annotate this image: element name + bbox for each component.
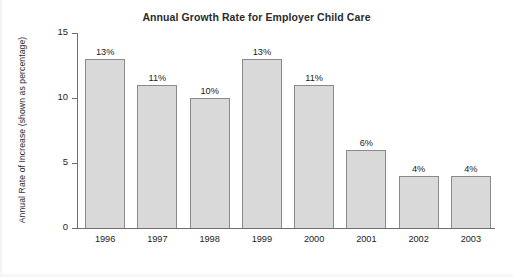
scan-edge-bottom (0, 272, 513, 277)
bar-1999: 13%1999 (242, 59, 282, 228)
bar-value-label: 6% (360, 138, 373, 148)
bar-2002: 4%2002 (399, 176, 439, 228)
bar-value-label: 11% (305, 73, 323, 83)
chart-title: Annual Growth Rate for Employer Child Ca… (0, 11, 513, 23)
bar-value-label: 13% (253, 47, 271, 57)
y-axis-line (77, 33, 78, 228)
y-axis-tick: 5 (72, 163, 77, 164)
x-axis-tick-label: 2000 (304, 234, 324, 244)
x-axis-tick-label: 2001 (356, 234, 376, 244)
chart-screenshot: Annual Growth Rate for Employer Child Ca… (0, 0, 513, 277)
x-axis-line (77, 228, 495, 229)
bar-value-label: 13% (96, 47, 114, 57)
bar-1997: 11%1997 (137, 85, 177, 228)
bar-2003: 4%2003 (451, 176, 491, 228)
y-axis-tick: 15 (72, 33, 77, 34)
y-axis-tick-label: 0 (63, 221, 68, 232)
bar-1998: 10%1998 (190, 98, 230, 228)
bar-value-label: 4% (464, 164, 477, 174)
y-axis-tick-label: 10 (57, 91, 68, 102)
plot-area: 051015 13%199611%199710%199813%199911%20… (77, 33, 495, 228)
x-axis-tick-label: 1999 (252, 234, 272, 244)
y-axis-title: Annual Rate of Increase (shown as percen… (14, 22, 30, 238)
bar-2001: 6%2001 (346, 150, 386, 228)
bar-value-label: 10% (200, 86, 218, 96)
bar-1996: 13%1996 (85, 59, 125, 228)
y-axis-tick: 10 (72, 98, 77, 99)
y-axis-tick-label: 15 (57, 26, 68, 37)
y-axis-title-label: Annual Rate of Increase (shown as percen… (17, 37, 27, 224)
x-axis-tick-label: 1997 (147, 234, 167, 244)
scan-edge-left (0, 0, 4, 277)
x-axis-tick-label: 2003 (461, 234, 481, 244)
y-axis-tick-label: 5 (63, 156, 68, 167)
x-axis-tick-label: 1998 (199, 234, 219, 244)
y-axis-tick: 0 (72, 228, 77, 229)
bar-value-label: 4% (412, 164, 425, 174)
x-axis-tick-label: 2002 (408, 234, 428, 244)
bar-2000: 11%2000 (294, 85, 334, 228)
bar-value-label: 11% (149, 73, 167, 83)
x-axis-tick-label: 1996 (95, 234, 115, 244)
